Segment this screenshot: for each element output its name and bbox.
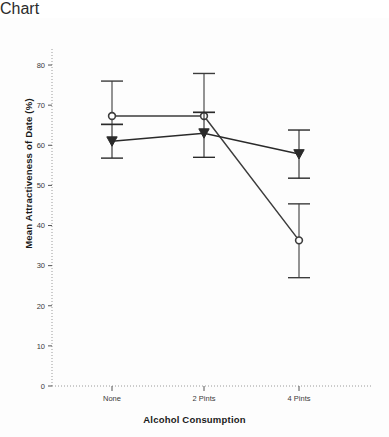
y-tick-label: 70: [37, 101, 45, 110]
x-tick-label: 2 Pints: [193, 394, 216, 403]
x-tick-label: None: [103, 394, 121, 403]
y-tick-label: 20: [37, 302, 45, 311]
x-axis-title: Alcohol Consumption: [0, 414, 389, 425]
y-tick-label: 60: [37, 141, 45, 150]
data-marker-circle: [109, 113, 116, 120]
x-tick-labels: None2 Pints4 Pints: [103, 394, 311, 403]
y-tick-label: 50: [37, 181, 45, 190]
plot-area: 01020304050607080 None2 Pints4 Pints: [0, 18, 389, 437]
series-group: [101, 73, 310, 277]
y-tick-label: 40: [37, 221, 45, 230]
y-tick-label: 0: [41, 382, 45, 391]
y-tick-label: 30: [37, 261, 45, 270]
data-marker-circle: [296, 237, 303, 244]
y-tick-label: 10: [37, 342, 45, 351]
chart-svg: 01020304050607080 None2 Pints4 Pints: [0, 18, 389, 437]
axes-group: [52, 49, 372, 386]
y-tick-label: 80: [37, 61, 45, 70]
chart-figure: Mean Attractiveness of Date (%) 01020304…: [0, 18, 389, 437]
x-tick-label: 4 Pints: [288, 394, 311, 403]
data-marker-triangle: [294, 150, 304, 159]
tick-group: 01020304050607080: [37, 61, 299, 391]
